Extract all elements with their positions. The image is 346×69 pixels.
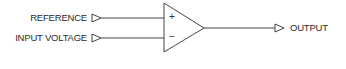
plus-sign: + [169,12,175,22]
input-voltage-label: INPUT VOLTAGE [15,33,87,43]
output-port-arrow-icon [275,24,284,32]
output-label: OUTPUT [290,23,328,33]
minus-sign: − [169,32,175,42]
reference-label: REFERENCE [30,13,87,23]
input-voltage-port-arrow-icon [92,34,101,42]
reference-port-arrow-icon [92,14,101,22]
